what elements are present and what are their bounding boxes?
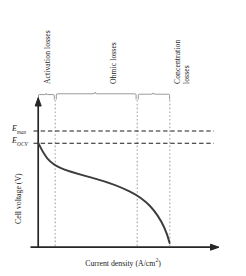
- curve-path: [38, 143, 169, 243]
- emax-subscript: max: [17, 129, 26, 135]
- bracket-concentration: [138, 93, 169, 100]
- region-boundary-lines: [55, 100, 170, 247]
- polarization-curve: [38, 143, 169, 243]
- polarization-curve-figure: Activation losses Ohmic losses Concentra…: [0, 0, 246, 276]
- x-axis-arrowhead: [211, 244, 220, 250]
- bracket-activation: [39, 93, 55, 99]
- region-label-ohmic: Ohmic losses: [110, 42, 119, 84]
- eocv-subscript: OCV: [17, 141, 28, 147]
- bracket-ohmic: [56, 92, 136, 99]
- region-label-concentration: Concentration losses: [174, 40, 191, 84]
- x-axis-label-tail: ): [158, 259, 161, 268]
- plot-canvas: [0, 0, 246, 276]
- region-label-activation: Activation losses: [44, 30, 53, 84]
- voltage-tick-label-eocv: EOCV: [12, 136, 28, 147]
- voltage-tick-label-emax: Emax: [12, 124, 26, 135]
- y-axis-arrowhead: [35, 98, 41, 106]
- x-axis-label-text: Current density (A/cm: [85, 259, 155, 268]
- y-axis-label: Cell voltage (V): [14, 173, 23, 224]
- region-brackets: [39, 92, 170, 99]
- axes: [31, 98, 220, 251]
- x-axis-label: Current density (A/cm2): [0, 257, 246, 268]
- voltage-reference-lines: [34, 131, 215, 143]
